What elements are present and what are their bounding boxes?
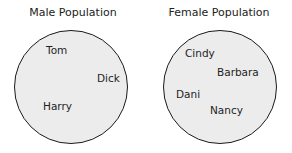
- member-barbara: Barbara: [217, 66, 259, 78]
- male-population-circle: [14, 30, 128, 144]
- male-population-panel: Male Population Tom Dick Harry: [0, 0, 146, 153]
- member-tom: Tom: [46, 44, 67, 56]
- member-harry: Harry: [43, 100, 72, 112]
- male-population-title: Male Population: [0, 6, 146, 19]
- female-population-title: Female Population: [146, 6, 292, 19]
- female-population-panel: Female Population Cindy Barbara Dani Nan…: [146, 0, 292, 153]
- member-cindy: Cindy: [185, 47, 215, 59]
- female-population-circle: [163, 30, 277, 144]
- member-nancy: Nancy: [210, 104, 243, 116]
- member-dani: Dani: [176, 88, 200, 100]
- member-dick: Dick: [97, 72, 120, 84]
